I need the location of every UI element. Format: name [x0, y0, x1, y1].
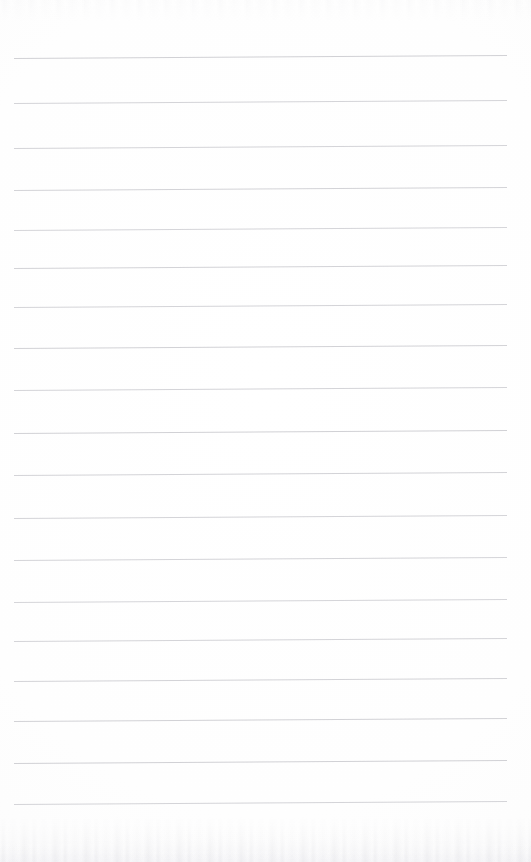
writing-area[interactable] [0, 0, 531, 862]
scanned-notepad-page [0, 0, 531, 862]
